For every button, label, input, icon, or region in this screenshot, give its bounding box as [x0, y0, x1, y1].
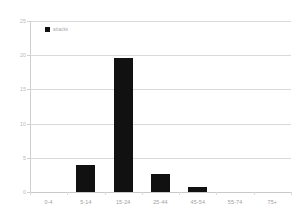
y-axis-tick-mark	[27, 89, 30, 90]
y-axis-tick-label: 15	[20, 86, 26, 92]
gridline	[30, 124, 291, 125]
x-axis-tick-mark	[105, 192, 106, 195]
x-axis-tick-mark	[179, 192, 180, 195]
y-axis-tick-mark	[27, 124, 30, 125]
gridline	[30, 158, 291, 159]
x-axis-tick-label: 75+	[268, 199, 278, 205]
x-axis-tick-mark	[142, 192, 143, 195]
plot-area	[30, 21, 291, 192]
gridline	[30, 21, 291, 22]
y-axis-tick-mark	[27, 55, 30, 56]
bar-chart: 0510152025 attacks 0-45-1415-2425-4445-5…	[0, 0, 303, 217]
x-axis-tick-mark	[216, 192, 217, 195]
y-axis-tick-label: 25	[20, 18, 26, 24]
legend-entry-label: attacks	[53, 27, 68, 32]
chart-legend: attacks	[45, 27, 68, 32]
gridline	[30, 55, 291, 56]
x-axis-tick-mark	[30, 192, 31, 195]
x-axis-tick-label: 0-4	[45, 199, 53, 205]
x-axis-tick-label: 55-74	[228, 199, 243, 205]
x-axis-tick-label: 45-54	[191, 199, 206, 205]
legend-color-swatch	[45, 27, 50, 32]
bar	[76, 165, 95, 192]
bar	[188, 187, 207, 192]
x-axis-tick-label: 25-44	[153, 199, 168, 205]
x-axis-tick-mark	[254, 192, 255, 195]
y-axis-tick-label: 5	[23, 155, 26, 161]
y-axis-tick-label: 0	[23, 189, 26, 195]
y-axis-tick-mark	[27, 158, 30, 159]
bar	[151, 174, 170, 192]
x-axis-tick-mark	[67, 192, 68, 195]
x-axis-tick-label: 15-24	[116, 199, 131, 205]
x-axis-tick-label: 5-14	[80, 199, 91, 205]
y-axis-tick-label: 20	[20, 52, 26, 58]
y-axis-tick-labels: 0510152025	[0, 0, 26, 217]
y-axis-tick-mark	[27, 21, 30, 22]
x-axis-tick-mark	[291, 192, 292, 195]
gridline	[30, 89, 291, 90]
y-axis-tick-label: 10	[20, 121, 26, 127]
y-axis-line	[30, 21, 31, 192]
gridline	[30, 192, 291, 193]
bar	[114, 58, 133, 192]
